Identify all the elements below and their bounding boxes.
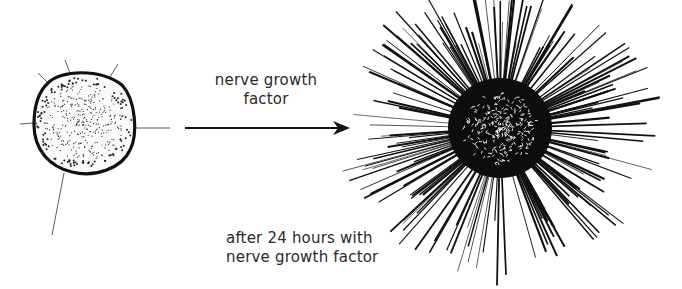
arrow-label: nerve growth factor xyxy=(196,71,336,109)
result-caption-line2: nerve growth factor xyxy=(226,248,406,267)
result-caption-line1: after 24 hours with xyxy=(226,229,406,248)
arrow-label-line1: nerve growth xyxy=(196,71,336,90)
ganglion-before-icon xyxy=(20,60,170,235)
arrow-label-line2: factor xyxy=(196,90,336,109)
arrow-icon xyxy=(185,121,350,135)
result-caption: after 24 hours with nerve growth factor xyxy=(226,229,406,267)
